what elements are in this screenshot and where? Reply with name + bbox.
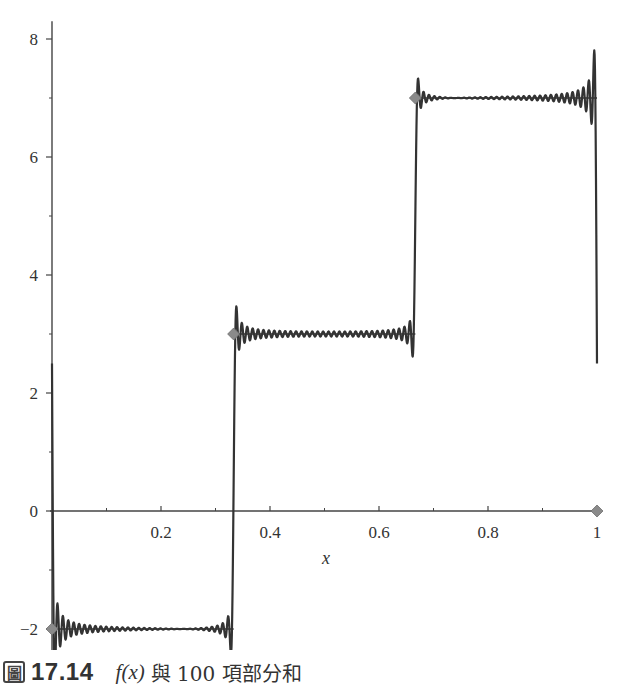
x-tick-label: 0.2 [150,523,171,542]
y-tick-label: −2 [20,620,38,639]
figure-caption: 圖 17.14 f(x) 與 100 項部分和 [3,657,302,687]
figure-glyph-box: 圖 [3,661,25,683]
chart-plot-area: −2024680.20.40.60.81 x [0,0,619,650]
y-tick-label: 6 [30,148,39,167]
x-tick-label: 0.6 [368,523,389,542]
y-tick-label: 4 [30,266,39,285]
y-tick-label: 0 [30,502,39,521]
x-tick-label: 0.4 [259,523,281,542]
caption-text: 與 100 項部分和 [151,658,302,687]
x-axis-title: x [321,548,330,568]
y-tick-label: 8 [30,30,39,49]
x-tick-label: 1 [593,523,602,542]
y-tick-label: 2 [30,384,39,403]
caption-function: f(x) [116,660,145,685]
x-tick-label: 0.8 [477,523,498,542]
point-marker-diamond [591,505,603,517]
figure-number: 17.14 [31,658,94,686]
